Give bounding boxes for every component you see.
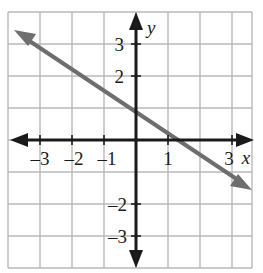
y-tick-label: –3 bbox=[107, 226, 127, 247]
y-tick-label: 3 bbox=[115, 34, 125, 55]
y-tick-label: –2 bbox=[107, 194, 127, 215]
graph-canvas: –3 –2 –1 1 3 3 2 –2 –3 y x bbox=[0, 0, 263, 273]
x-tick-label: 1 bbox=[163, 148, 173, 169]
y-axis-label: y bbox=[145, 17, 156, 38]
x-tick-label: –2 bbox=[64, 148, 84, 169]
x-axis-label: x bbox=[241, 147, 251, 168]
x-tick-label: –3 bbox=[30, 148, 50, 169]
coordinate-graph: –3 –2 –1 1 3 3 2 –2 –3 y x bbox=[0, 0, 263, 273]
y-tick-label: 2 bbox=[115, 66, 125, 87]
x-tick-label: –1 bbox=[97, 148, 117, 169]
x-tick-label: 3 bbox=[224, 148, 234, 169]
